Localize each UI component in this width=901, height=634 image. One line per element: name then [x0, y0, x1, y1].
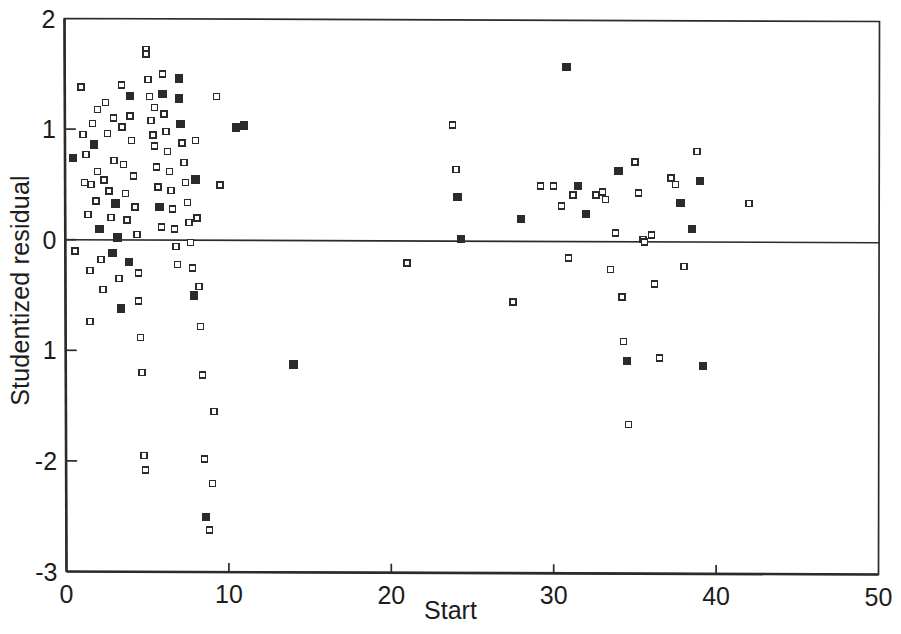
y-axis-label: Studentized residual [0, 0, 40, 580]
scatter-plot-figure: Studentized residual 01020304050 2101-2-… [0, 0, 901, 634]
svg-text:1: 1 [42, 115, 56, 143]
svg-text:1: 1 [43, 336, 57, 364]
y-axis-label-text: Studentized residual [6, 175, 35, 406]
plot-canvas: 01020304050 2101-2-3 [0, 0, 901, 634]
data-point-markers [70, 47, 752, 533]
axes-frame [65, 19, 880, 575]
x-axis-label: Start [0, 596, 901, 625]
svg-text:0: 0 [42, 226, 56, 254]
svg-text:2: 2 [42, 5, 56, 33]
